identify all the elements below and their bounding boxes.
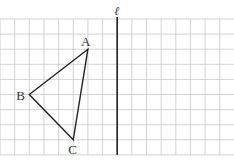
vertex-label-c: C [68, 142, 77, 157]
line-l-label: ℓ [114, 4, 119, 18]
grid-figure: ℓ A B C [0, 0, 234, 163]
vertex-label-b: B [16, 88, 25, 103]
vertex-label-a: A [81, 34, 91, 49]
